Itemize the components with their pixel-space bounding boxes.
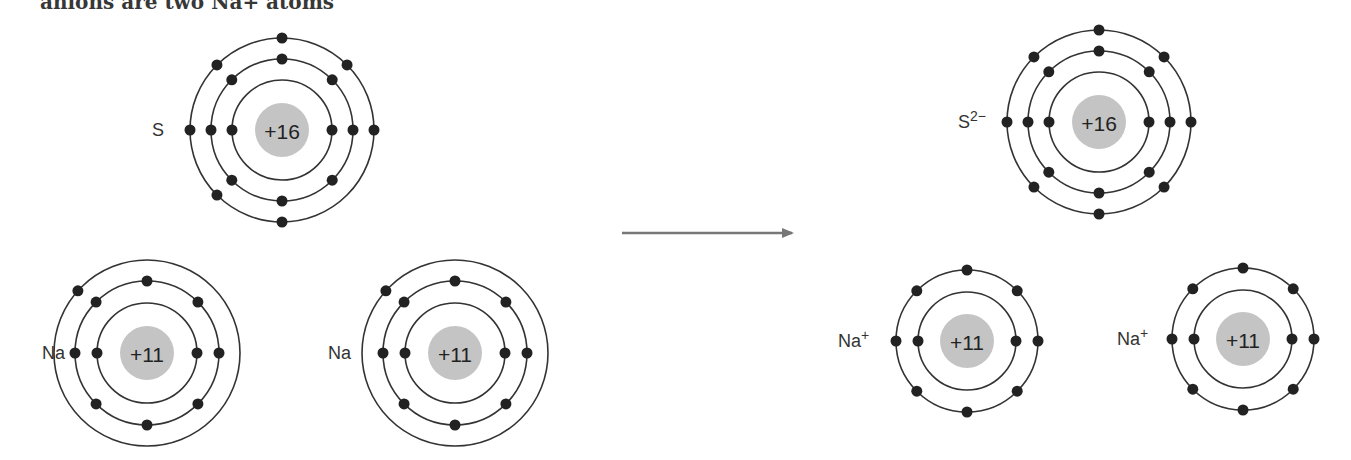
electron-dot xyxy=(91,398,102,409)
electron-dot xyxy=(1287,334,1298,345)
electron-dot xyxy=(1288,384,1299,395)
electron-dot xyxy=(1094,25,1105,36)
electron-dot xyxy=(1043,66,1054,77)
electron-dot xyxy=(1189,334,1200,345)
electron-dot xyxy=(226,175,237,186)
electron-dot xyxy=(70,348,81,359)
electron-dot xyxy=(142,276,153,287)
electron-dot xyxy=(1028,182,1039,193)
electron-dot xyxy=(1167,334,1178,345)
electron-dot xyxy=(211,190,222,201)
electron-dot xyxy=(1187,283,1198,294)
electron-dot xyxy=(1012,386,1023,397)
electron-dot xyxy=(1043,167,1054,178)
electron-dot xyxy=(192,297,203,308)
electron-dot xyxy=(277,33,288,44)
electron-dot xyxy=(911,386,922,397)
electron-dot xyxy=(500,398,511,409)
electron-dot xyxy=(500,297,511,308)
electron-dot xyxy=(1186,117,1197,128)
electron-dot xyxy=(1187,384,1198,395)
element-symbol-label: Na+ xyxy=(1117,325,1148,349)
ionic-bond-diagram: +16S+11Na+11Na +16S2−+11Na++11Na+ xyxy=(0,0,1351,460)
electron-dot xyxy=(399,398,410,409)
electron-dot xyxy=(450,420,461,431)
electron-dot xyxy=(522,348,533,359)
electron-dot xyxy=(378,348,389,359)
electron-dot xyxy=(1288,283,1299,294)
electron-dot xyxy=(185,125,196,136)
products: +16S2−+11Na++11Na+ xyxy=(838,25,1320,418)
electron-dot xyxy=(450,276,461,287)
nucleus-charge-label: +11 xyxy=(438,343,472,366)
electron-dot xyxy=(962,407,973,418)
sodium-ion-1: +11Na+ xyxy=(838,265,1044,418)
electron-dot xyxy=(342,59,353,70)
electron-dot xyxy=(369,125,380,136)
electron-dot xyxy=(327,74,338,85)
electron-dot xyxy=(1238,405,1249,416)
electron-dot xyxy=(1238,263,1249,274)
element-symbol-label: Na xyxy=(42,343,66,363)
sodium-atom-2: +11Na xyxy=(328,260,548,446)
electron-dot xyxy=(1002,117,1013,128)
electron-dot xyxy=(1033,336,1044,347)
electron-dot xyxy=(72,285,83,296)
electron-dot xyxy=(1044,117,1055,128)
nucleus-charge-label: +11 xyxy=(950,331,984,354)
electron-dot xyxy=(1094,209,1105,220)
nucleus-charge-label: +11 xyxy=(1226,329,1260,352)
electron-dot xyxy=(226,74,237,85)
electron-dot xyxy=(399,297,410,308)
nucleus-charge-label: +16 xyxy=(264,120,300,143)
electron-dot xyxy=(192,348,203,359)
electron-dot xyxy=(1012,285,1023,296)
electron-dot xyxy=(327,125,338,136)
electron-dot xyxy=(91,297,102,308)
electron-dot xyxy=(192,398,203,409)
electron-dot xyxy=(327,175,338,186)
electron-dot xyxy=(1165,117,1176,128)
electron-dot xyxy=(214,348,225,359)
electron-dot xyxy=(1094,188,1105,199)
electron-dot xyxy=(348,125,359,136)
electron-dot xyxy=(1144,117,1155,128)
nucleus-charge-label: +16 xyxy=(1081,112,1117,135)
element-symbol-label: Na+ xyxy=(838,327,869,351)
electron-dot xyxy=(1144,167,1155,178)
electron-dot xyxy=(1028,51,1039,62)
electron-dot xyxy=(206,125,217,136)
electron-dot xyxy=(1011,336,1022,347)
electron-dot xyxy=(227,125,238,136)
electron-dot xyxy=(380,285,391,296)
electron-dot xyxy=(1159,51,1170,62)
nucleus-charge-label: +11 xyxy=(130,343,164,366)
electron-dot xyxy=(500,348,511,359)
electron-dot xyxy=(911,285,922,296)
electron-dot xyxy=(913,336,924,347)
electron-dot xyxy=(400,348,411,359)
sodium-ion-2: +11Na+ xyxy=(1117,263,1320,416)
electron-dot xyxy=(92,348,103,359)
element-symbol-label: S xyxy=(152,120,164,140)
electron-dot xyxy=(211,59,222,70)
electron-dot xyxy=(891,336,902,347)
electron-dot xyxy=(1023,117,1034,128)
electron-dot xyxy=(1094,46,1105,57)
sodium-atom-1: +11Na xyxy=(42,260,240,446)
electron-dot xyxy=(962,265,973,276)
sulfide-ion: +16S2− xyxy=(958,25,1197,220)
electron-dot xyxy=(1159,182,1170,193)
electron-dot xyxy=(1144,66,1155,77)
electron-dot xyxy=(142,420,153,431)
electron-dot xyxy=(277,54,288,65)
electron-dot xyxy=(277,196,288,207)
element-symbol-label: S2− xyxy=(958,108,986,132)
electron-dot xyxy=(277,217,288,228)
reactants: +16S+11Na+11Na xyxy=(42,33,548,447)
sulfur-atom: +16S xyxy=(152,33,380,228)
element-symbol-label: Na xyxy=(328,343,352,363)
electron-dot xyxy=(1309,334,1320,345)
